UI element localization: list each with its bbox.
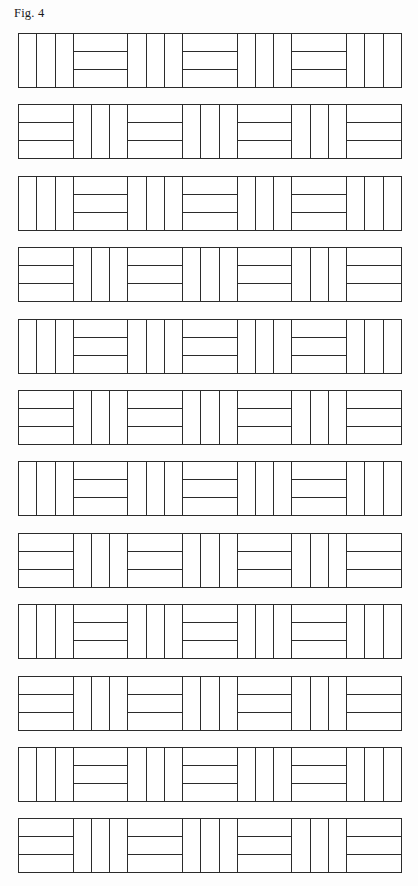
weave-block-horizontal xyxy=(18,247,74,302)
weave-block-horizontal xyxy=(182,176,238,231)
weave-strip xyxy=(183,765,237,783)
pattern-row xyxy=(18,33,402,88)
weave-strip xyxy=(128,105,182,122)
weave-strip xyxy=(128,391,182,408)
weave-strip xyxy=(238,605,255,658)
weave-strip xyxy=(109,105,127,158)
weave-block-horizontal xyxy=(291,319,347,374)
weave-strip xyxy=(238,248,292,265)
pattern-row xyxy=(18,604,402,659)
weave-strip xyxy=(183,605,237,622)
pattern-row xyxy=(18,533,402,588)
weave-strip xyxy=(55,177,73,230)
figure-caption: Fig. 4 xyxy=(14,6,44,20)
weave-block-horizontal xyxy=(18,533,74,588)
weave-strip xyxy=(55,34,73,87)
weave-strip xyxy=(238,677,292,694)
weave-block-vertical xyxy=(127,461,183,516)
weave-strip xyxy=(183,177,237,194)
weave-strip xyxy=(364,320,382,373)
weave-block-vertical xyxy=(346,319,402,374)
weave-strip xyxy=(36,34,54,87)
weave-strip xyxy=(91,677,109,730)
weave-strip xyxy=(19,819,73,836)
weave-block-vertical xyxy=(18,604,74,659)
weave-block-vertical xyxy=(73,533,129,588)
weave-strip xyxy=(328,391,346,444)
weave-block-vertical xyxy=(73,818,129,873)
weave-strip xyxy=(292,248,309,301)
weave-strip xyxy=(19,391,73,408)
weave-block-horizontal xyxy=(127,818,183,873)
weave-strip xyxy=(238,462,255,515)
weave-strip xyxy=(128,712,182,730)
weave-strip xyxy=(364,462,382,515)
weave-strip xyxy=(183,51,237,69)
weave-strip xyxy=(91,391,109,444)
weave-strip xyxy=(164,177,182,230)
weave-strip xyxy=(364,748,382,801)
weave-strip xyxy=(347,391,401,408)
weave-strip xyxy=(200,105,218,158)
weave-strip xyxy=(238,391,292,408)
weave-block-vertical xyxy=(291,390,347,445)
weave-strip xyxy=(292,212,346,230)
weave-strip xyxy=(200,248,218,301)
weave-strip xyxy=(183,34,237,51)
weave-strip xyxy=(19,320,36,373)
weave-strip xyxy=(164,462,182,515)
weave-strip xyxy=(183,783,237,801)
weave-strip xyxy=(310,105,328,158)
weave-strip xyxy=(19,426,73,444)
weave-strip xyxy=(292,605,346,622)
weave-block-vertical xyxy=(127,747,183,802)
weave-strip xyxy=(364,605,382,658)
weave-strip xyxy=(128,854,182,872)
weave-strip xyxy=(310,391,328,444)
weave-strip xyxy=(383,320,401,373)
weave-block-vertical xyxy=(18,747,74,802)
weave-strip xyxy=(292,177,346,194)
weave-strip xyxy=(347,819,401,836)
weave-strip xyxy=(109,819,127,872)
weave-strip xyxy=(55,605,73,658)
weave-strip xyxy=(273,462,291,515)
weave-strip xyxy=(109,391,127,444)
weave-strip xyxy=(347,694,401,712)
weave-block-horizontal xyxy=(127,390,183,445)
weave-strip xyxy=(128,551,182,569)
weave-strip xyxy=(74,819,91,872)
weave-strip xyxy=(74,212,128,230)
weave-block-horizontal xyxy=(182,461,238,516)
weave-block-horizontal xyxy=(18,818,74,873)
weave-block-vertical xyxy=(291,533,347,588)
weave-strip xyxy=(347,408,401,426)
weave-block-horizontal xyxy=(237,676,293,731)
weave-strip xyxy=(91,819,109,872)
weave-strip xyxy=(238,140,292,158)
weave-strip xyxy=(347,426,401,444)
weave-block-horizontal xyxy=(127,247,183,302)
weave-block-vertical xyxy=(127,604,183,659)
weave-strip xyxy=(74,248,91,301)
weave-strip xyxy=(255,34,273,87)
weave-strip xyxy=(183,677,200,730)
weave-strip xyxy=(292,534,309,587)
weave-strip xyxy=(36,462,54,515)
weave-strip xyxy=(146,605,164,658)
weave-strip xyxy=(219,248,237,301)
weave-strip xyxy=(164,605,182,658)
weave-block-horizontal xyxy=(291,33,347,88)
weave-strip xyxy=(347,34,364,87)
weave-strip xyxy=(146,462,164,515)
weave-strip xyxy=(364,34,382,87)
weave-strip xyxy=(19,122,73,140)
weave-block-vertical xyxy=(291,104,347,159)
weave-strip xyxy=(273,177,291,230)
weave-strip xyxy=(347,551,401,569)
weave-strip xyxy=(238,265,292,283)
weave-strip xyxy=(128,677,182,694)
weave-strip xyxy=(219,677,237,730)
weave-strip xyxy=(347,122,401,140)
weave-strip xyxy=(74,765,128,783)
